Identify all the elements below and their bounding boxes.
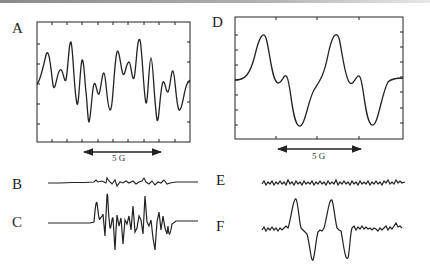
trace-b	[48, 178, 198, 186]
trace-e	[262, 180, 405, 185]
spectrum-d	[235, 35, 403, 127]
trace-f	[262, 199, 402, 260]
figure-canvas	[0, 0, 430, 273]
panel-d-frame	[235, 17, 403, 139]
trace-c	[48, 194, 198, 250]
spectrum-a	[37, 39, 190, 122]
